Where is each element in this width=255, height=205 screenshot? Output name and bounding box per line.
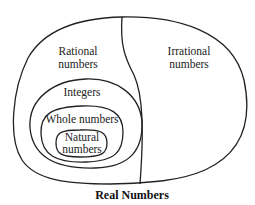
diagram-title: Real Numbers xyxy=(95,188,169,202)
natural-label-line1: Natural xyxy=(65,131,99,143)
rational-label-line1: Rational xyxy=(59,45,98,57)
natural-label-line2: numbers xyxy=(62,143,102,155)
whole-numbers-label: Whole numbers xyxy=(45,113,119,125)
rational-label-line2: numbers xyxy=(58,58,98,70)
rational-irrational-divider xyxy=(122,17,143,184)
real-numbers-venn-diagram: Rational numbers Irrational numbers Inte… xyxy=(0,0,255,205)
irrational-label-line2: numbers xyxy=(169,58,209,70)
irrational-label-line1: Irrational xyxy=(168,45,211,57)
integers-label: Integers xyxy=(63,86,101,99)
